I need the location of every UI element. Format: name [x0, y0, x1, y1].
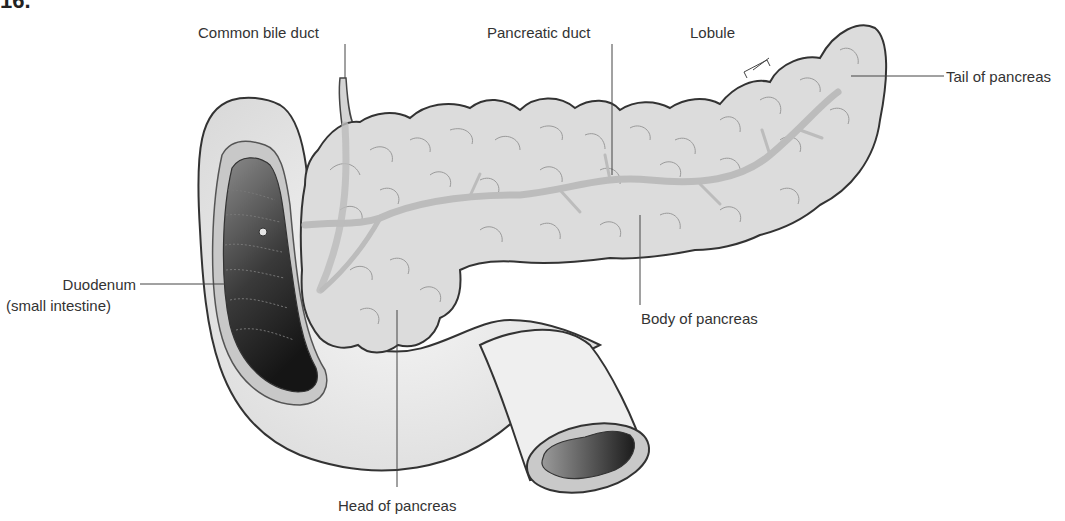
label-lobule: Lobule: [690, 24, 735, 41]
common-bile-duct: [339, 78, 355, 125]
label-body-of-pancreas: Body of pancreas: [641, 310, 758, 327]
diagram-canvas: [0, 0, 1065, 521]
label-duodenum: Duodenum: [42, 276, 136, 293]
label-pancreatic-duct: Pancreatic duct: [487, 24, 590, 41]
label-small-intestine: (small intestine): [6, 297, 111, 314]
pancreas: [301, 25, 886, 352]
label-head-of-pancreas: Head of pancreas: [338, 497, 456, 514]
label-common-bile-duct: Common bile duct: [198, 24, 319, 41]
pancreas-diagram: 16.: [0, 0, 1065, 521]
label-tail-of-pancreas: Tail of pancreas: [946, 68, 1051, 85]
